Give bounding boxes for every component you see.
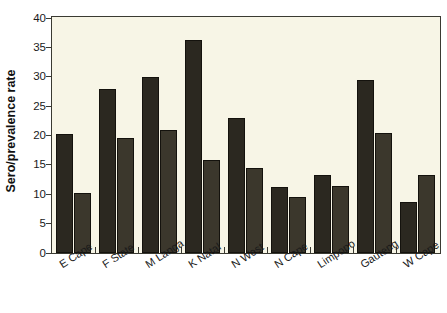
bar xyxy=(375,133,392,253)
x-axis-tick-labels: E CapeF StateM LangaK NatalN WestN CapeL… xyxy=(51,256,441,313)
y-tick-label: 30 xyxy=(18,70,46,82)
y-tick-label: 15 xyxy=(18,158,46,170)
y-tick-label: 0 xyxy=(18,247,46,259)
bar xyxy=(160,130,177,253)
bar xyxy=(357,80,374,253)
bar-group xyxy=(353,17,396,253)
y-tick-label: 35 xyxy=(18,41,46,53)
bar-group xyxy=(138,17,181,253)
bar xyxy=(246,168,263,253)
bar xyxy=(56,134,73,253)
bar xyxy=(117,138,134,253)
x-tick-mark xyxy=(138,247,139,253)
y-tick-label: 20 xyxy=(18,129,46,141)
y-tick-label: 10 xyxy=(18,188,46,200)
bar xyxy=(203,160,220,253)
y-tick-label: 5 xyxy=(18,217,46,229)
x-tick-mark xyxy=(224,247,225,253)
y-tick-label: 40 xyxy=(18,12,46,24)
plot-area xyxy=(51,16,441,254)
bar xyxy=(314,175,331,253)
y-axis-tick-labels: 0510152025303540 xyxy=(18,18,46,253)
bar xyxy=(228,118,245,253)
bar-group xyxy=(181,17,224,253)
bar-chart: Sero/prevalence rate 0510152025303540 E … xyxy=(0,0,447,313)
y-tick-label: 25 xyxy=(18,100,46,112)
x-tick-mark xyxy=(95,247,96,253)
plot-inner xyxy=(52,17,440,253)
bar xyxy=(271,187,288,253)
bar-group xyxy=(310,17,353,253)
bar-group xyxy=(396,17,439,253)
bar-group xyxy=(224,17,267,253)
y-axis-title: Sero/prevalence rate xyxy=(0,0,20,262)
y-axis-title-text: Sero/prevalence rate xyxy=(3,70,17,193)
bar xyxy=(99,89,116,254)
x-tick-mark xyxy=(310,247,311,253)
bar-group xyxy=(267,17,310,253)
x-tick-mark xyxy=(267,247,268,253)
bar-group xyxy=(95,17,138,253)
bar xyxy=(400,202,417,253)
bar-group xyxy=(52,17,95,253)
bar xyxy=(185,40,202,253)
bar xyxy=(142,77,159,253)
